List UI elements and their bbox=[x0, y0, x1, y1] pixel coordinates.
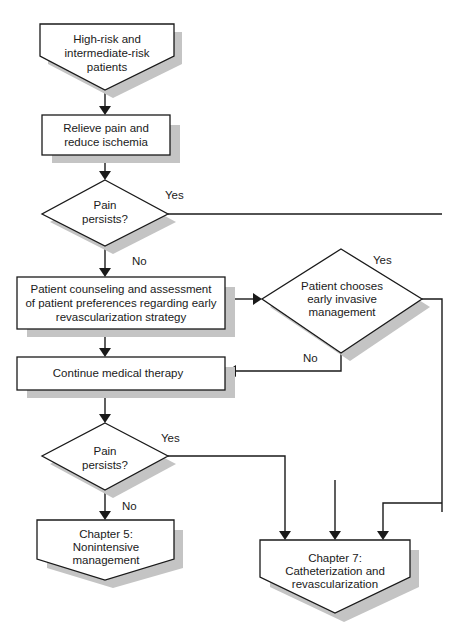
svg-text:Nonintensive: Nonintensive bbox=[73, 541, 139, 553]
svg-text:Continue medical therapy: Continue medical therapy bbox=[53, 367, 184, 379]
edge-decision2-no bbox=[234, 353, 341, 371]
node-start-line-2: intermediate-risk bbox=[65, 47, 150, 59]
edge-label-d2-no: No bbox=[303, 352, 318, 364]
svg-text:Pain: Pain bbox=[93, 445, 116, 457]
svg-text:persists?: persists? bbox=[82, 459, 128, 471]
node-start: High-risk and intermediate-risk patients bbox=[40, 24, 182, 98]
node-relieve: Relieve pain and reduce ischemia bbox=[42, 115, 180, 163]
svg-text:Chapter 5:: Chapter 5: bbox=[79, 528, 133, 540]
svg-text:Relieve pain and: Relieve pain and bbox=[63, 122, 149, 134]
edge-into-chapter7-right bbox=[383, 503, 442, 533]
node-chapter7-line-1: Chapter 7: bbox=[308, 552, 362, 564]
svg-text:persists?: persists? bbox=[82, 213, 128, 225]
svg-text:revascularization strategy: revascularization strategy bbox=[56, 311, 187, 323]
node-counseling: Patient counseling and assessment of pat… bbox=[17, 277, 235, 337]
flowchart-canvas: High-risk and intermediate-risk patients… bbox=[0, 0, 464, 641]
arrowhead-icon bbox=[99, 511, 111, 520]
node-decision3: Pain persists? bbox=[42, 423, 176, 498]
connectors-chapter7 bbox=[329, 480, 442, 540]
svg-text:patients: patients bbox=[87, 61, 128, 73]
arrowhead-icon bbox=[99, 171, 111, 180]
arrowhead-icon bbox=[99, 414, 111, 423]
node-chapter5-line-2: Nonintensive bbox=[73, 541, 139, 553]
svg-text:Patient counseling and assessm: Patient counseling and assessment bbox=[31, 283, 213, 295]
node-decision1: Pain persists? bbox=[42, 180, 176, 254]
node-decision2-line-3: management bbox=[308, 306, 376, 318]
arrowhead-icon bbox=[99, 268, 111, 277]
svg-text:management: management bbox=[308, 306, 376, 318]
edge-decision2-yes bbox=[422, 299, 442, 512]
svg-text:Chapter 7:: Chapter 7: bbox=[308, 552, 362, 564]
node-continue: Continue medical therapy bbox=[17, 357, 235, 398]
node-start-line-3: patients bbox=[87, 61, 128, 73]
edge-label-d1-no: No bbox=[132, 255, 147, 267]
node-start-line-1: High-risk and bbox=[73, 33, 141, 45]
node-decision2-line-2: early invasive bbox=[307, 293, 377, 305]
svg-text:of patient preferences regardi: of patient preferences regarding early bbox=[25, 297, 216, 309]
node-chapter7: Chapter 7: Catheterization and revascula… bbox=[260, 540, 419, 622]
svg-text:Patient chooses: Patient chooses bbox=[301, 280, 383, 292]
node-decision3-line-2: persists? bbox=[82, 459, 128, 471]
edge-label-d3-no: No bbox=[122, 500, 137, 512]
svg-text:Pain: Pain bbox=[93, 199, 116, 211]
arrowhead-icon bbox=[99, 348, 111, 357]
node-decision3-line-1: Pain bbox=[93, 445, 116, 457]
node-relieve-line-1: Relieve pain and bbox=[63, 122, 149, 134]
node-counseling-line-3: revascularization strategy bbox=[56, 311, 187, 323]
node-continue-line-1: Continue medical therapy bbox=[53, 367, 184, 379]
node-chapter7-line-3: revascularization bbox=[292, 578, 378, 590]
svg-text:Catheterization and: Catheterization and bbox=[285, 565, 385, 577]
arrowhead-icon bbox=[377, 531, 389, 540]
svg-text:High-risk and: High-risk and bbox=[73, 33, 141, 45]
edge-decision3-yes bbox=[168, 456, 285, 533]
arrowhead-icon bbox=[99, 106, 111, 115]
node-decision1-line-1: Pain bbox=[93, 199, 116, 211]
node-chapter5-line-3: management bbox=[72, 554, 140, 566]
edge-label-d3-yes: Yes bbox=[161, 432, 180, 444]
svg-text:management: management bbox=[72, 554, 140, 566]
edge-label-d1-yes: Yes bbox=[165, 189, 184, 201]
node-chapter7-line-2: Catheterization and bbox=[285, 565, 385, 577]
svg-text:intermediate-risk: intermediate-risk bbox=[65, 47, 150, 59]
node-decision2-line-1: Patient chooses bbox=[301, 280, 383, 292]
svg-text:early invasive: early invasive bbox=[307, 293, 377, 305]
arrowhead-icon bbox=[253, 293, 262, 305]
edge-label-d2-yes: Yes bbox=[373, 254, 392, 266]
node-chapter5: Chapter 5: Nonintensive management bbox=[37, 520, 183, 588]
svg-text:reduce ischemia: reduce ischemia bbox=[64, 136, 148, 148]
svg-text:revascularization: revascularization bbox=[292, 578, 378, 590]
node-chapter5-line-1: Chapter 5: bbox=[79, 528, 133, 540]
node-counseling-line-1: Patient counseling and assessment bbox=[31, 283, 213, 295]
node-decision1-line-2: persists? bbox=[82, 213, 128, 225]
node-decision2: Patient chooses early invasive managemen… bbox=[262, 249, 430, 361]
node-counseling-line-2: of patient preferences regarding early bbox=[25, 297, 216, 309]
node-relieve-line-2: reduce ischemia bbox=[64, 136, 148, 148]
arrowhead-icon bbox=[279, 531, 291, 540]
arrowhead-icon bbox=[329, 531, 341, 540]
